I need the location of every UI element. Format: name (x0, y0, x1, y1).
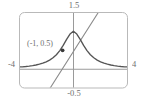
figure-container: 1.5 -0.5 -4 4 (-1, 0.5) (0, 0, 144, 102)
y-max-label: 1.5 (62, 1, 86, 10)
y-min-label: -0.5 (60, 89, 88, 98)
point-annotation-label: (-1, 0.5) (27, 39, 53, 48)
chart-canvas (0, 0, 144, 102)
x-min-label: -4 (1, 60, 15, 69)
tangency-point-marker (61, 48, 65, 52)
x-max-label: 4 (132, 60, 144, 69)
